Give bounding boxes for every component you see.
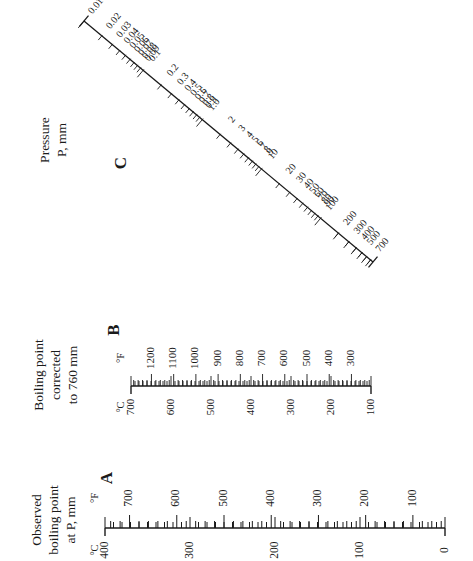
scale-c-tick: [245, 157, 249, 162]
scale-c-tick: [314, 215, 318, 220]
scale-b-fahrenheit-label: 300: [344, 349, 356, 366]
scale-b-fahrenheit-label: 600: [277, 349, 289, 366]
scale-c-end-cap: [369, 257, 378, 268]
scale-b-fahrenheit-label: 1200: [144, 347, 156, 370]
nomograph-canvas: 4003002001000700600500400300200100°C°FAO…: [0, 0, 473, 561]
scale-c-tick: [134, 65, 138, 70]
scale-c-tick: [227, 143, 231, 148]
scale-c-tick: [299, 203, 303, 208]
scale-a-unit-celsius: °C: [89, 544, 100, 555]
scale-a-fahrenheit-label: 100: [406, 489, 418, 507]
scale-c-tick: [252, 164, 256, 169]
scale-c-tick: [351, 248, 356, 254]
scale-b-fahrenheit-label: 1000: [188, 347, 200, 370]
scale-b-unit-celsius: °C: [115, 401, 126, 412]
scale-c-tick: [234, 149, 238, 154]
scale-c-tick: [137, 67, 141, 72]
scale-c-tick: [126, 59, 130, 64]
scale-c-tick: [122, 55, 126, 60]
scale-a-celsius-label: 100: [353, 541, 365, 559]
scale-c: 0.010.020.030.040.050.060.070.080.090.10…: [37, 0, 391, 267]
scale-b: 7006005004003002001001200110010009008007…: [31, 324, 375, 415]
scale-b-unit-fahrenheit: °F: [115, 353, 126, 363]
scale-a-celsius-label: 0: [438, 547, 450, 553]
scale-b-fahrenheit-label: 800: [233, 349, 245, 366]
scale-b-title-line-2: corrected: [48, 350, 63, 400]
scale-c-tick: [311, 213, 315, 218]
scale-c-key: C: [111, 157, 130, 169]
scale-b-title-line-3: to 760 mm: [65, 345, 80, 404]
scale-c-tick: [196, 117, 200, 122]
scale-b-title-line-1: Boiling point: [31, 339, 46, 411]
scale-c-tick: [294, 198, 298, 203]
scale-c-tick: [304, 207, 308, 212]
scale-b-key: B: [104, 324, 123, 335]
scale-c-tick: [308, 210, 312, 215]
scale-a-fahrenheit-label: 500: [217, 489, 229, 507]
scale-c-tick: [116, 50, 120, 55]
scale-b-fahrenheit-label: 400: [322, 349, 334, 366]
scale-c-axis-line: [84, 21, 373, 262]
scale-b-celsius-label: 100: [364, 398, 376, 415]
scale-c-pressure-label: 0.01: [85, 0, 105, 16]
scale-b-fahrenheit-label: 1100: [166, 347, 178, 369]
nomograph-figure: 4003002001000700600500400300200100°C°FAO…: [0, 0, 473, 561]
scale-b-celsius-label: 600: [164, 398, 176, 415]
scale-c-tick: [168, 93, 172, 98]
scale-a-fahrenheit-label: 400: [264, 489, 276, 507]
scale-c-title-line-1: Pressure: [37, 117, 52, 163]
scale-c-tick: [276, 183, 280, 188]
scale-a-title-line-1: Observed: [29, 494, 44, 546]
scale-c-tick: [109, 44, 113, 49]
scale-c-tick: [181, 104, 185, 109]
scale-c-tick: [344, 242, 349, 248]
scale-c-tick: [357, 253, 362, 259]
scale-a-celsius-label: 300: [183, 541, 195, 559]
scale-b-fahrenheit-label: 700: [255, 349, 267, 366]
scale-c-tick: [130, 62, 134, 67]
scale-c-tick: [333, 233, 338, 239]
scale-c-tick: [157, 85, 161, 90]
scale-c-tick: [217, 134, 221, 139]
scale-a-title-line-2: boiling point: [46, 485, 61, 555]
scale-b-fahrenheit-label: 500: [300, 349, 312, 366]
scale-a-fahrenheit-label: 300: [311, 489, 323, 507]
scale-c-tick: [240, 153, 244, 158]
scale-a-title-line-3: at P, mm: [63, 496, 78, 543]
scale-c-tick: [175, 99, 179, 104]
scale-a-celsius-label: 200: [268, 541, 280, 559]
scale-c-tick: [255, 166, 259, 171]
scale-c-title-line-2: P, mm: [54, 123, 69, 157]
scale-c-tick: [186, 108, 190, 113]
scale-a-fahrenheit-label: 200: [358, 489, 370, 507]
scale-b-fahrenheit-label: 900: [211, 349, 223, 366]
scale-c-tick: [190, 111, 194, 116]
scale-c-tick: [361, 257, 366, 263]
scale-a-fahrenheit-label: 700: [122, 489, 134, 507]
scale-b-celsius-label: 300: [284, 398, 296, 415]
scale-c-tick: [193, 114, 197, 119]
scale-c-tick: [78, 20, 85, 28]
scale-b-celsius-label: 400: [244, 398, 256, 415]
scale-b-celsius-label: 500: [204, 398, 216, 415]
scale-b-celsius-label: 200: [324, 398, 336, 415]
scale-c-tick: [249, 161, 253, 166]
scale-c-tick: [286, 192, 290, 197]
scale-a-unit-fahrenheit: °F: [89, 493, 100, 503]
scale-a-key: A: [97, 471, 116, 484]
scale-a: 4003002001000700600500400300200100°C°FAO…: [29, 471, 450, 558]
scale-c-pressure-label: 2: [226, 114, 238, 125]
scale-c-tick: [98, 35, 102, 40]
scale-a-fahrenheit-label: 600: [169, 489, 181, 507]
